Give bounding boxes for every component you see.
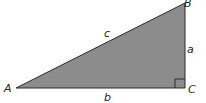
vertex-label-b: B <box>184 0 192 10</box>
right-triangle-diagram: A B C a b c <box>0 0 206 103</box>
side-label-a: a <box>187 43 194 56</box>
vertex-label-a: A <box>3 82 12 95</box>
vertex-label-c: C <box>188 83 196 96</box>
triangle-shape <box>16 3 185 88</box>
side-label-b: b <box>104 91 111 103</box>
side-label-c: c <box>104 27 110 40</box>
